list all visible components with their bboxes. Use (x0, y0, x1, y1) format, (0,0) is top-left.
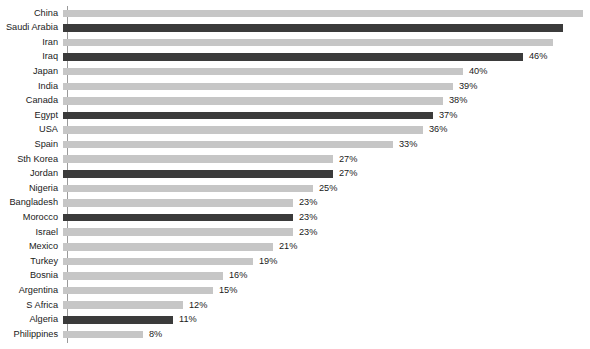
category-label: Mexico (0, 242, 63, 251)
value-label: 37% (439, 111, 457, 120)
bar-area: 27% (63, 167, 590, 182)
bar-row: Saudi Arabia (0, 21, 590, 36)
bar-highlighted (63, 170, 333, 178)
bar (63, 68, 463, 76)
bar (63, 272, 223, 280)
bar-area: 23% (63, 196, 590, 211)
bar-area: 36% (63, 123, 590, 138)
bar-area: 11% (63, 312, 590, 327)
category-label: USA (0, 125, 63, 134)
bar-area (63, 35, 590, 50)
bar-row: Iraq46% (0, 50, 590, 65)
category-label: Bangladesh (0, 198, 63, 207)
bar-rows-container: ChinaSaudi ArabiaIranIraq46%Japan40%Indi… (0, 6, 590, 342)
value-label: 8% (149, 330, 162, 339)
category-label: India (0, 82, 63, 91)
category-label: Sth Korea (0, 155, 63, 164)
bar (63, 331, 143, 339)
value-label: 11% (179, 315, 197, 324)
bar (63, 243, 273, 251)
bar (63, 126, 423, 134)
category-label: Israel (0, 228, 63, 237)
bar-area: 33% (63, 137, 590, 152)
bar-row: Israel23% (0, 225, 590, 240)
value-label: 40% (469, 67, 487, 76)
bar-area: 39% (63, 79, 590, 94)
bar (63, 199, 293, 207)
bar-area: 12% (63, 298, 590, 313)
bar-row: Argentina15% (0, 283, 590, 298)
bar-area: 46% (63, 50, 590, 65)
value-label: 15% (219, 286, 237, 295)
bar-highlighted (63, 316, 173, 324)
bar-highlighted (63, 112, 433, 120)
category-label: Bosnia (0, 271, 63, 280)
bar (63, 228, 293, 236)
bar-row: Iran (0, 35, 590, 50)
bar-row: Morocco23% (0, 210, 590, 225)
bar-area: 19% (63, 254, 590, 269)
value-label: 27% (339, 155, 357, 164)
category-label: Algeria (0, 315, 63, 324)
category-label: Spain (0, 140, 63, 149)
value-label: 36% (429, 125, 447, 134)
value-label: 39% (459, 82, 477, 91)
category-label: Iran (0, 38, 63, 47)
category-label: Nigeria (0, 184, 63, 193)
value-label: 33% (399, 140, 417, 149)
value-label: 21% (279, 242, 297, 251)
value-label: 19% (259, 257, 277, 266)
value-label: 23% (299, 198, 317, 207)
bar-area (63, 6, 590, 21)
value-label: 23% (299, 228, 317, 237)
bar-row: Algeria11% (0, 312, 590, 327)
bar-area: 27% (63, 152, 590, 167)
bar-row: Egypt37% (0, 108, 590, 123)
value-label: 38% (449, 96, 467, 105)
bar-highlighted (63, 24, 563, 32)
bar (63, 301, 183, 309)
bar-row: Turkey19% (0, 254, 590, 269)
bar-area: 8% (63, 327, 590, 342)
bar-area: 23% (63, 210, 590, 225)
bar-area: 37% (63, 108, 590, 123)
bar-area: 40% (63, 64, 590, 79)
category-label: S Africa (0, 301, 63, 310)
value-label: 12% (189, 301, 207, 310)
bar (63, 39, 553, 47)
value-label: 23% (299, 213, 317, 222)
category-label: Argentina (0, 286, 63, 295)
bar-row: Jordan27% (0, 167, 590, 182)
bar-area: 23% (63, 225, 590, 240)
category-label: Morocco (0, 213, 63, 222)
bar (63, 287, 213, 295)
category-label: Japan (0, 67, 63, 76)
bar-area: 15% (63, 283, 590, 298)
bar (63, 155, 333, 163)
bar (63, 97, 443, 105)
bar (63, 141, 393, 149)
category-label: China (0, 9, 63, 18)
bar-area: 25% (63, 181, 590, 196)
bar (63, 258, 253, 266)
bar (63, 185, 313, 193)
horizontal-bar-chart: ChinaSaudi ArabiaIranIraq46%Japan40%Indi… (0, 0, 590, 349)
bar-row: Canada38% (0, 94, 590, 109)
bar-highlighted (63, 53, 523, 61)
bar-row: USA36% (0, 123, 590, 138)
category-label: Canada (0, 96, 63, 105)
bar-row: Japan40% (0, 64, 590, 79)
bar-row: Spain33% (0, 137, 590, 152)
bar-area: 16% (63, 269, 590, 284)
category-label: Philippines (0, 330, 63, 339)
bar-row: China (0, 6, 590, 21)
category-label: Iraq (0, 52, 63, 61)
category-label: Jordan (0, 169, 63, 178)
bar-row: S Africa12% (0, 298, 590, 313)
bar (63, 83, 453, 91)
bar-area (63, 21, 590, 36)
value-label: 27% (339, 169, 357, 178)
bar-row: Philippines8% (0, 327, 590, 342)
bar-highlighted (63, 214, 293, 222)
value-label: 25% (319, 184, 337, 193)
